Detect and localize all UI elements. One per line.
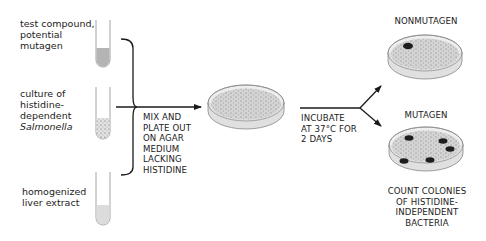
agar-plate-mutagen (389, 127, 463, 171)
colony (403, 43, 413, 49)
label-mutagen: MUTAGEN (385, 110, 467, 121)
test-tube-test-compound (96, 20, 110, 67)
colony (426, 157, 435, 163)
label-nonmutagen: NONMUTAGEN (385, 16, 467, 27)
label-salmonella-culture: culture of histidine- dependent Salmonel… (20, 88, 73, 132)
agar-plate-center (208, 85, 284, 129)
test-tube-salmonella-culture (96, 87, 110, 139)
label-test-compound: test compound, potential mutagen (20, 18, 95, 51)
test-tube-liver-extract (96, 172, 110, 225)
colony (400, 158, 409, 164)
label-liver-extract: homogenized liver extract (22, 186, 86, 208)
colony (439, 138, 448, 144)
agar-plate-nonmutagen (388, 35, 462, 79)
caption-incubate: INCUBATE AT 37°C FOR 2 DAYS (301, 113, 357, 145)
caption-mix-and-plate: MIX AND PLATE OUT ON AGAR MEDIUM LACKING… (143, 112, 191, 175)
caption-count-colonies: COUNT COLONIES OF HISTIDINE- INDEPENDENT… (378, 186, 476, 228)
colony (405, 135, 414, 141)
colony (446, 146, 455, 152)
